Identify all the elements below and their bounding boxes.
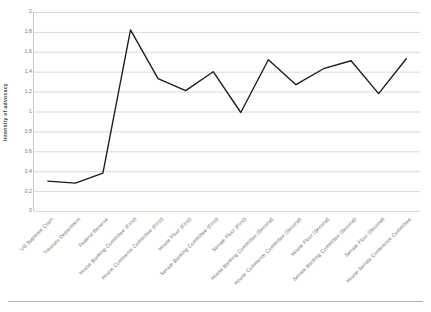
bottom-divider	[8, 301, 423, 302]
chart-figure: Intensity of advocacy 00.20.40.60.811.21…	[0, 0, 431, 312]
